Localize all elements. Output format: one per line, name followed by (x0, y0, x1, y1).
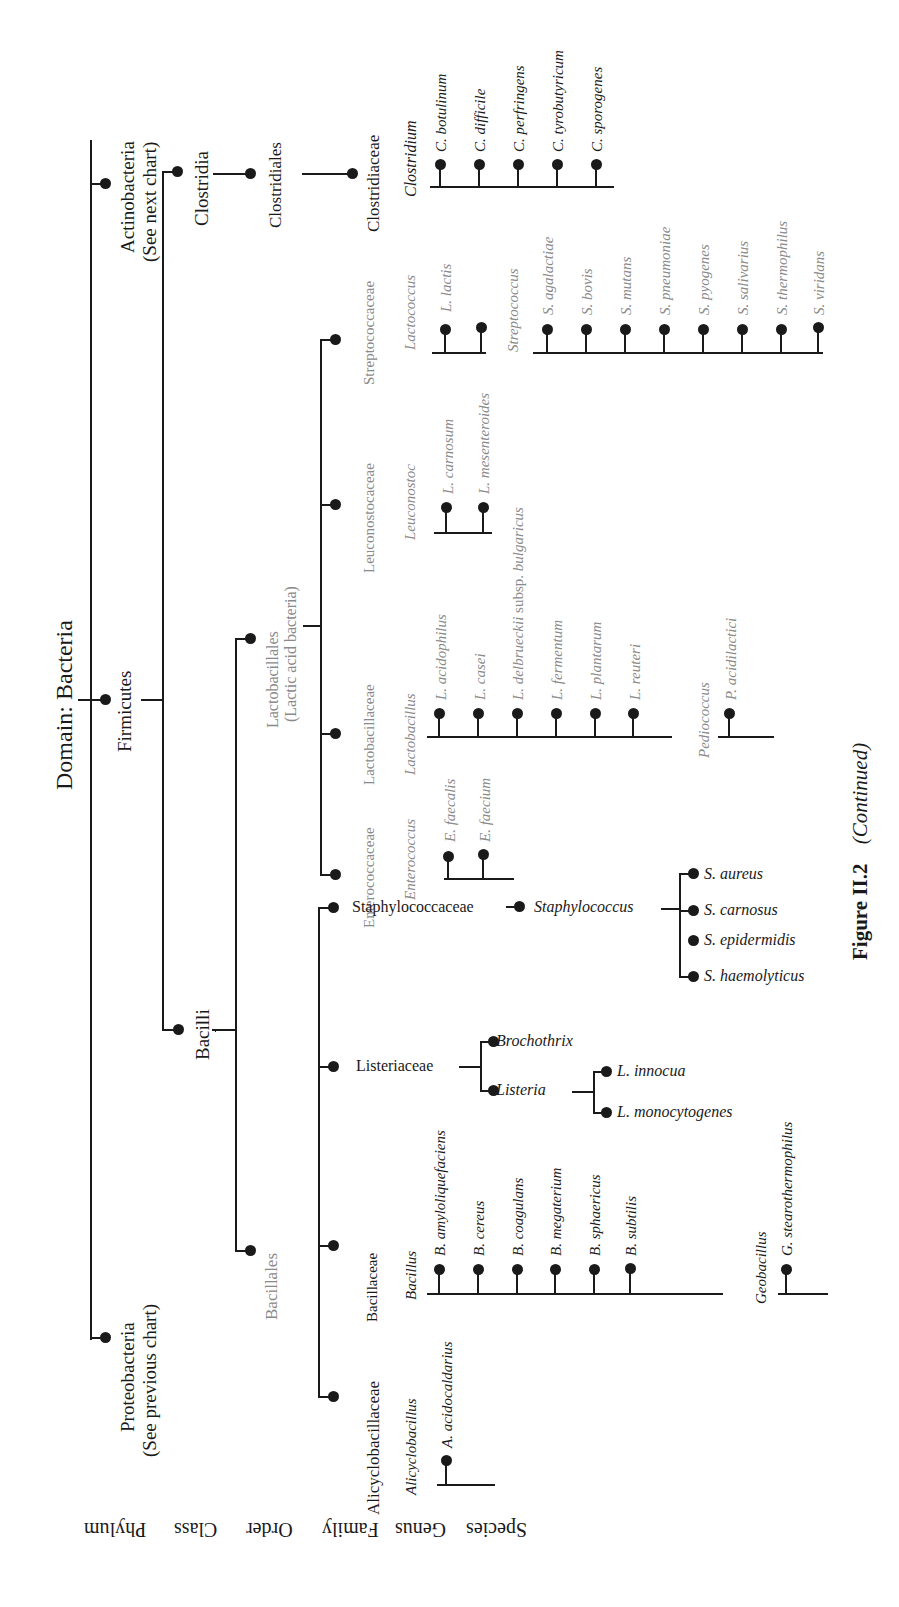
order-spine (235, 638, 237, 1251)
node-dot-icon (328, 902, 339, 913)
species-label: B. coagulans (511, 1178, 526, 1256)
node-dot-icon (512, 708, 523, 719)
node-dot-icon (688, 971, 699, 982)
class-spine (162, 171, 164, 1030)
species-label: C. difficile (473, 89, 488, 152)
species-label: E. faecium (478, 778, 493, 842)
connector (303, 625, 321, 627)
phylum-proteobacteria-note: (See previous chart) (140, 1304, 159, 1457)
node-dot-icon (100, 1332, 111, 1343)
species-label: P. acidilactici (724, 618, 739, 700)
listeria-spine (593, 1071, 595, 1113)
species-bar (778, 1293, 828, 1295)
species-bar (444, 878, 514, 880)
genus-enterococcus: Enterococcus (403, 819, 418, 900)
node-dot-icon (620, 324, 631, 335)
rank-label-class: Class (174, 1520, 217, 1540)
species-label: L. plantarum (589, 622, 604, 700)
node-dot-icon (441, 1455, 452, 1466)
delbrueckii-name: L. delbrueckii (510, 617, 526, 700)
connector (215, 1030, 216, 1032)
family-streptococcaceae: Streptococcaceae (362, 281, 377, 385)
node-dot-icon (435, 159, 446, 170)
species-label: S. aureus (704, 866, 763, 882)
order-clostridiales: Clostridiales (267, 142, 284, 228)
figure-number: Figure II.2 (848, 864, 872, 960)
node-dot-icon (776, 324, 787, 335)
node-dot-icon (590, 708, 601, 719)
lacto-family-spine (320, 339, 322, 875)
node-dot-icon (245, 1245, 256, 1256)
genus-lactobacillus: Lactobacillus (403, 693, 418, 775)
class-bacilli: Bacilli (193, 1009, 212, 1060)
listeriaceae-spine (480, 1041, 482, 1091)
genus-staphylococcus: Staphylococcus (534, 899, 634, 915)
phylum-proteobacteria: Proteobacteria (118, 1322, 137, 1432)
phylum-spine (90, 140, 92, 1340)
species-label: L. innocua (617, 1063, 685, 1079)
node-dot-icon (550, 1264, 561, 1275)
node-dot-icon (245, 633, 256, 644)
node-dot-icon (625, 1263, 636, 1274)
species-label: C. perfringens (512, 65, 527, 152)
node-dot-icon (173, 1024, 184, 1035)
node-dot-icon (551, 708, 562, 719)
species-bar (432, 352, 486, 354)
phylum-actinobacteria-note: (See next chart) (140, 142, 159, 262)
species-label: C. tyrobutyricum (551, 50, 566, 152)
node-dot-icon (698, 324, 709, 335)
species-label: L. monocytogenes (617, 1104, 733, 1120)
node-dot-icon (512, 1264, 523, 1275)
node-dot-icon (328, 1240, 339, 1251)
species-label: A. acidocaldarius (440, 1341, 455, 1448)
species-label: L. acidophilus (434, 614, 449, 700)
connector (213, 173, 248, 175)
species-label: B. sphaericus (588, 1174, 603, 1256)
species-label: S. pneumoniae (658, 227, 673, 315)
species-label: S. thermophilus (775, 221, 790, 315)
figure-note: (Continued) (848, 743, 872, 844)
node-dot-icon (100, 694, 111, 705)
node-dot-icon (473, 708, 484, 719)
rank-label-order: Order (246, 1520, 293, 1540)
node-dot-icon (441, 502, 452, 513)
node-dot-icon (330, 334, 341, 345)
node-dot-icon (601, 1107, 612, 1118)
class-clostridia: Clostridia (192, 151, 211, 226)
connector (661, 908, 679, 910)
order-lactobacillales: Lactobacillales (265, 631, 281, 728)
bacillales-family-spine (318, 907, 320, 1397)
node-dot-icon (330, 869, 341, 880)
node-dot-icon (100, 178, 111, 189)
species-label-delbrueckii: L. delbrueckii subsp. bulgaricus (511, 507, 526, 700)
species-label: B. amyloliquefaciens (433, 1130, 448, 1256)
node-dot-icon (476, 322, 487, 333)
species-label: S. agalactiae (541, 237, 556, 315)
species-label: C. botulinum (434, 74, 449, 152)
species-label: S. viridans (812, 251, 827, 315)
species-label: S. epidermidis (704, 932, 796, 948)
node-dot-icon (601, 1066, 612, 1077)
node-dot-icon (628, 708, 639, 719)
connector (459, 1066, 481, 1068)
node-dot-icon (478, 502, 489, 513)
node-dot-icon (443, 851, 454, 862)
family-alicyclobacillaceae: Alicyclobacillaceae (365, 1381, 382, 1515)
node-dot-icon (434, 1264, 445, 1275)
node-dot-icon (478, 849, 489, 860)
species-label: C. sporogenes (590, 67, 605, 152)
genus-pediococcus: Pediococcus (697, 682, 712, 758)
genus-streptococcus: Streptococcus (506, 268, 521, 352)
species-bar (427, 1293, 723, 1295)
genus-geobacillus: Geobacillus (754, 1232, 769, 1305)
species-label: G. stearothermophilus (780, 1122, 795, 1256)
species-label: S. pyogenes (697, 244, 712, 315)
species-label: E. faecalis (443, 779, 458, 842)
node-dot-icon (440, 324, 451, 335)
species-bar (427, 736, 672, 738)
species-bar (437, 1484, 495, 1486)
node-dot-icon (781, 1264, 792, 1275)
species-bar (718, 736, 774, 738)
species-bar (533, 352, 823, 354)
node-dot-icon (552, 159, 563, 170)
